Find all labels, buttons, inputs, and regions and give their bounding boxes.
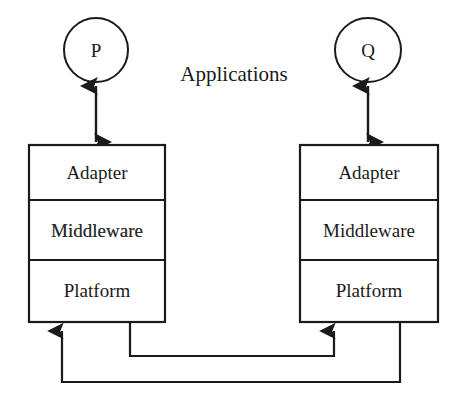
applications-group-label: Applications: [168, 64, 300, 85]
connector-left-platform-to-right-platform: [130, 323, 334, 356]
stack-left-layer-middleware-label: Middleware: [29, 221, 165, 240]
stack-right-layer-adapter-label: Adapter: [300, 163, 438, 182]
stack-left-layer-platform-label: Platform: [29, 281, 165, 300]
diagram-canvas: P Q Applications Adapter Middleware Plat…: [0, 0, 458, 404]
stack-right-layer-middleware-label: Middleware: [300, 221, 438, 240]
diagram-vector-layer: [0, 0, 458, 404]
stack-right-layer-platform-label: Platform: [300, 281, 438, 300]
stack-left-layer-adapter-label: Adapter: [29, 163, 165, 182]
app-node-q-label: Q: [348, 41, 388, 60]
connector-right-platform-to-left-platform: [62, 323, 400, 382]
app-node-p-label: P: [76, 41, 116, 60]
